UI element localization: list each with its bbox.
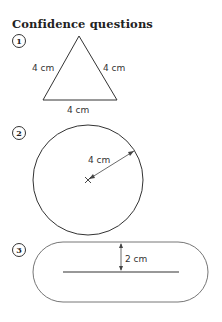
center-cross-icon	[85, 177, 91, 183]
triangle-figure: 4 cm 4 cm 4 cm	[32, 36, 125, 115]
circle-radius-label: 4 cm	[88, 155, 110, 165]
triangle-right-side-label: 4 cm	[103, 63, 125, 73]
distance-arrowhead-top-icon	[119, 243, 123, 248]
triangle-base-label: 4 cm	[67, 105, 89, 115]
stadium-figure: 2 cm	[33, 242, 208, 302]
circle-figure: 4 cm	[33, 125, 143, 235]
radius-arrowhead-outer-icon	[128, 151, 134, 156]
stadium-distance-label: 2 cm	[125, 254, 147, 264]
distance-arrowhead-bottom-icon	[119, 266, 123, 271]
geometry-figures: 4 cm 4 cm 4 cm 4 cm 2 cm	[0, 0, 222, 322]
triangle-left-side-label: 4 cm	[32, 63, 54, 73]
